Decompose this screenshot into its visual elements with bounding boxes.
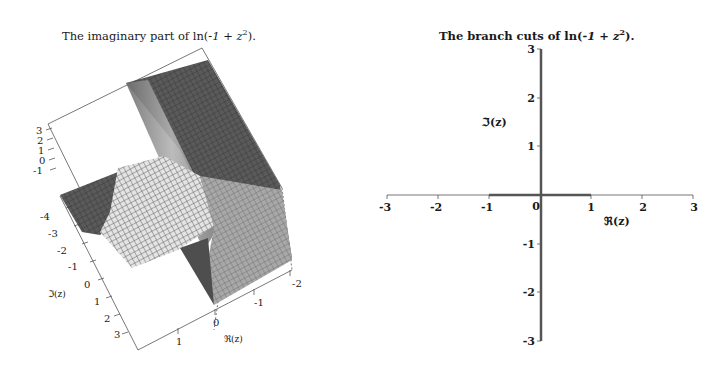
- y-tick-label: -1: [523, 238, 535, 251]
- y-tick-label: -2: [523, 286, 535, 299]
- y-tick-label: 2: [527, 92, 535, 105]
- x-tick-label: -2: [430, 201, 442, 214]
- y-tick-label: -3: [523, 335, 535, 348]
- branch-cut-plot: -3 -2 -1 0 1 2 3 ℜ(z) 3 2 1 -1 -2 -3 ℑ(z…: [0, 0, 727, 385]
- y-tick-label: 3: [527, 43, 535, 56]
- x-tick-label: -3: [379, 201, 391, 214]
- x-tick-label: 1: [587, 201, 595, 214]
- x-tick-label: 0: [532, 200, 540, 213]
- x-tick-label: 3: [690, 201, 698, 214]
- x-axis-label: ℜ(z): [604, 215, 630, 228]
- y-axis-label: ℑ(z): [481, 116, 507, 129]
- x-tick-label: -1: [481, 201, 493, 214]
- x-tick-label: 2: [639, 201, 647, 214]
- y-tick-label: 1: [527, 140, 535, 153]
